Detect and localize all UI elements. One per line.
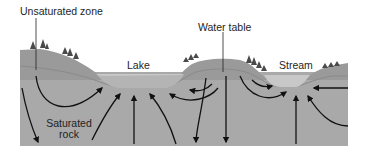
saturated-rock-label-line2: rock bbox=[44, 129, 94, 140]
water-table-label: Water table bbox=[198, 22, 251, 33]
stream-label: Stream bbox=[279, 60, 313, 71]
lake-label: Lake bbox=[127, 60, 150, 71]
saturated-rock-label: Saturated rock bbox=[44, 118, 94, 140]
unsaturated-zone-label: Unsaturated zone bbox=[20, 6, 103, 17]
